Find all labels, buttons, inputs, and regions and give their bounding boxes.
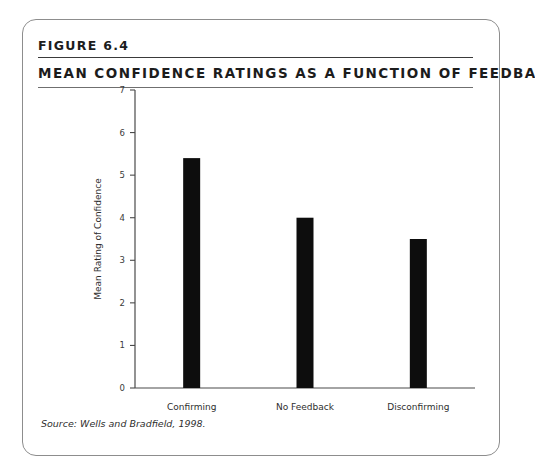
figure-frame: FIGURE 6.4 MEAN CONFIDENCE RATINGS AS A … xyxy=(22,19,500,456)
y-tick-label: 6 xyxy=(120,128,125,138)
category-label: No Feedback xyxy=(276,402,335,412)
y-tick-label: 4 xyxy=(120,213,125,223)
x-axis-category-labels: ConfirmingNo FeedbackDisconfirming xyxy=(167,402,449,412)
bar xyxy=(297,218,314,388)
bar xyxy=(183,158,200,388)
bar-chart: 01234567 ConfirmingNo FeedbackDisconfirm… xyxy=(83,82,483,412)
figure-header: FIGURE 6.4 MEAN CONFIDENCE RATINGS AS A … xyxy=(38,38,473,88)
y-tick-label: 0 xyxy=(120,383,125,393)
header-rule-bottom xyxy=(38,87,473,88)
figure-number-label: FIGURE 6.4 xyxy=(38,38,473,57)
source-note: Source: Wells and Bradfield, 1998. xyxy=(41,418,206,429)
y-axis-ticks: 01234567 xyxy=(120,85,135,393)
bar xyxy=(410,239,427,388)
y-tick-label: 3 xyxy=(120,255,125,265)
y-tick-label: 1 xyxy=(120,340,125,350)
bar-series xyxy=(183,158,427,388)
y-tick-label: 2 xyxy=(120,298,125,308)
category-label: Confirming xyxy=(167,402,216,412)
y-axis-title: Mean Rating of Confidence xyxy=(93,178,103,300)
category-label: Disconfirming xyxy=(387,402,449,412)
y-tick-label: 5 xyxy=(120,170,125,180)
figure-title: MEAN CONFIDENCE RATINGS AS A FUNCTION OF… xyxy=(38,58,473,87)
